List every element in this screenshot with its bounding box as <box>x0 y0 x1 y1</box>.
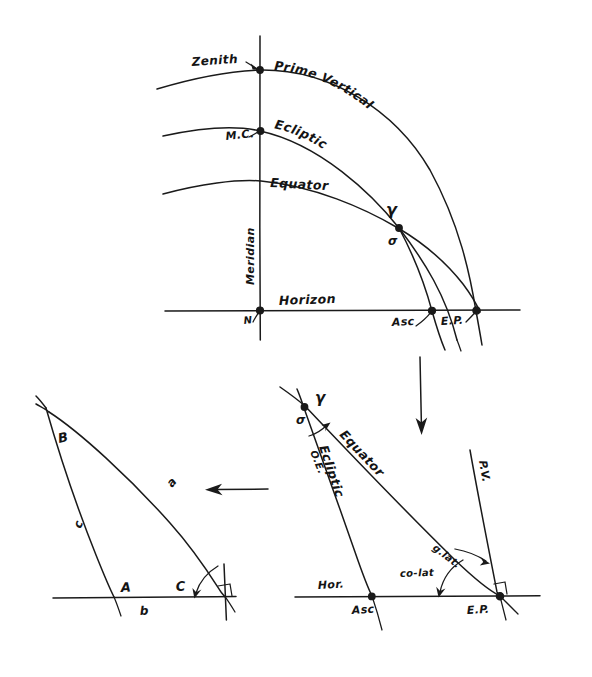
ep-leader-top <box>466 313 475 323</box>
label-aries-top: γ <box>386 200 398 219</box>
br-label-equator: Equator <box>0 0 453 524</box>
hand-drawn-diagram: Zenith Prime Vertical M.C. Ecliptic Equa… <box>0 0 592 677</box>
br-label-colat: co-lat <box>400 567 435 579</box>
bl-label-vertex-c: C <box>175 578 186 594</box>
bl-label-vertex-b: B <box>57 429 70 446</box>
meridian-line <box>260 36 261 340</box>
bottom-left-panel: B A C a b c <box>36 396 236 620</box>
zenith-point <box>257 67 263 73</box>
label-mc: M.C. <box>225 127 255 143</box>
br-label-glat: g.lat. <box>431 542 463 570</box>
bl-label-vertex-a: A <box>119 579 131 595</box>
label-meridian: Meridian <box>244 227 257 285</box>
svg-text:Ecliptic: Ecliptic <box>0 0 405 203</box>
label-zenith: Zenith <box>190 52 238 69</box>
label-equator-top: Equator <box>270 175 329 193</box>
bl-side-c-line <box>46 408 114 597</box>
top-panel: Zenith Prime Vertical M.C. Ecliptic Equa… <box>0 0 520 351</box>
down-arrow <box>416 357 428 435</box>
br-label-prime-vertical: P.V. <box>476 459 493 483</box>
bl-side-c-tail <box>114 597 121 616</box>
label-asc-top: Asc <box>390 315 415 329</box>
north-point <box>257 307 264 314</box>
mc-point <box>257 128 263 134</box>
bl-label-side-c: c <box>71 518 87 529</box>
br-label-ep: E.P. <box>466 603 489 617</box>
br-ep-point <box>496 593 503 600</box>
label-ep-top: E.P. <box>440 314 463 328</box>
left-arrow-shaft <box>215 489 268 490</box>
br-glat-arrowhead <box>480 557 490 565</box>
horizon-line <box>165 310 520 311</box>
prime-vertical-tail <box>476 311 482 345</box>
asc-leader-top <box>416 313 431 326</box>
label-north: N <box>243 314 253 326</box>
left-arrow <box>205 484 268 495</box>
br-label-aries: γ <box>315 389 327 407</box>
figure-canvas: Zenith Prime Vertical M.C. Ecliptic Equa… <box>0 0 592 677</box>
br-label-asc: Asc <box>350 602 375 617</box>
br-equator-extension <box>280 387 305 406</box>
bl-label-side-a: a <box>164 474 180 490</box>
down-arrow-shaft <box>420 357 421 424</box>
bl-side-a-line <box>49 412 225 597</box>
br-label-sigma: σ <box>296 413 306 427</box>
svg-text:Equator: Equator <box>0 0 453 524</box>
ecliptic-arc <box>163 128 457 340</box>
bl-label-side-b: b <box>139 604 149 618</box>
label-ecliptic-top: Ecliptic <box>0 0 405 203</box>
br-label-horizon: Hor. <box>317 578 344 592</box>
label-horizon-top: Horizon <box>279 291 337 308</box>
ecliptic-tail <box>457 340 461 351</box>
north-leader <box>253 313 259 322</box>
bl-vertical-at-c <box>224 564 226 620</box>
bl-base-line <box>53 597 236 598</box>
aries-point <box>396 225 402 231</box>
label-sigma-top: σ <box>388 234 398 248</box>
br-asc-point <box>369 593 375 599</box>
br-aries-point <box>301 404 307 410</box>
